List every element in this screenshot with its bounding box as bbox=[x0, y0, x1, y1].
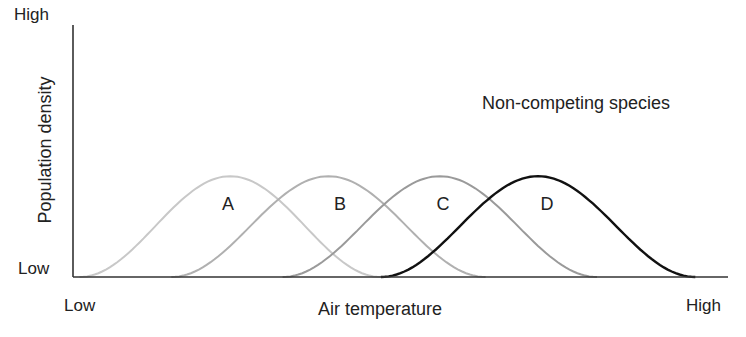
curve-c bbox=[283, 176, 597, 277]
curve-d bbox=[381, 176, 695, 277]
curves-group bbox=[80, 176, 696, 277]
curve-label-d: D bbox=[541, 194, 554, 215]
curve-label-c: C bbox=[437, 194, 450, 215]
curve-label-b: B bbox=[334, 194, 346, 215]
curve-a bbox=[80, 176, 381, 277]
curve-b bbox=[171, 176, 485, 277]
plot-area bbox=[0, 0, 746, 337]
curve-label-a: A bbox=[222, 194, 234, 215]
